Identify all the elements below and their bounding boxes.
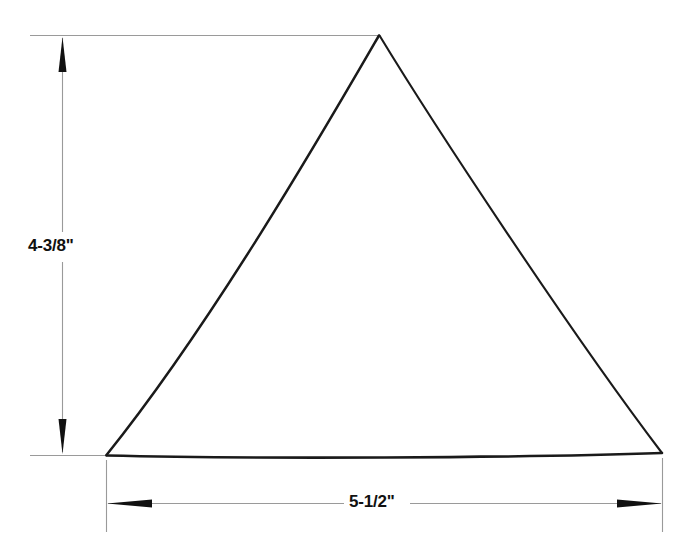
triangle-right-edge xyxy=(380,36,663,454)
technical-drawing-canvas: 4-3/8" 5-1/2" xyxy=(0,0,699,560)
triangle-base-edge xyxy=(107,453,663,458)
arrowhead-down-icon xyxy=(59,419,67,454)
vertical-dimension-label: 4-3/8" xyxy=(28,236,74,256)
triangle-left-edge xyxy=(107,36,380,456)
arrowhead-left-icon xyxy=(107,500,152,508)
arrowhead-right-icon xyxy=(617,500,662,508)
horizontal-dimension-label: 5-1/2" xyxy=(349,492,395,512)
arrowhead-up-icon xyxy=(59,37,67,72)
drawing-svg xyxy=(0,0,699,560)
